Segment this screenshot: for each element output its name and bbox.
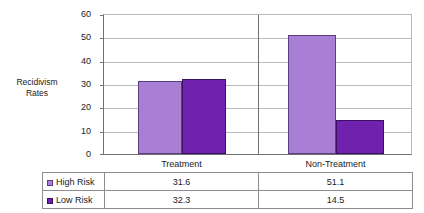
plot-area (103, 14, 412, 155)
bar-treatment-high-risk (138, 81, 182, 155)
y-tick-60: 60 (81, 10, 91, 19)
y-tick-30: 30 (81, 80, 91, 89)
tickmark-20 (100, 108, 104, 109)
legend-item-high-risk: High Risk (43, 173, 105, 191)
table-row: High Risk 31.6 51.1 (43, 173, 413, 191)
y-tick-40: 40 (81, 56, 91, 65)
high-risk-swatch-icon (47, 180, 53, 186)
y-tick-20: 20 (81, 103, 91, 112)
page-bleed-text (60, 0, 360, 4)
table-header-row: Treatment Non-Treatment (43, 155, 413, 173)
tickmark-10 (100, 132, 104, 133)
y-axis-title: Recidivism Rates (2, 77, 72, 99)
low-risk-swatch-icon (47, 198, 53, 204)
y-tick-10: 10 (81, 126, 91, 135)
y-tick-50: 50 (81, 33, 91, 42)
y-axis-title-line1: Recidivism (2, 77, 72, 88)
chart-figure: 60 50 40 30 20 10 0 Recidivism Rates (0, 0, 424, 213)
bar-nontreatment-high-risk (288, 35, 336, 154)
tickmark-30 (100, 85, 104, 86)
data-table: Treatment Non-Treatment High Risk 31.6 5… (42, 155, 413, 209)
category-divider (258, 15, 259, 154)
value-high-risk-treatment: 31.6 (105, 173, 259, 191)
legend-item-low-risk: Low Risk (43, 191, 105, 209)
tickmark-60 (100, 15, 104, 16)
bar-treatment-low-risk (182, 79, 226, 154)
category-header-nontreatment: Non-Treatment (259, 155, 413, 173)
legend-label-high-risk: High Risk (56, 177, 95, 187)
value-low-risk-nontreatment: 14.5 (259, 191, 413, 209)
value-high-risk-nontreatment: 51.1 (259, 173, 413, 191)
category-header-treatment: Treatment (105, 155, 259, 173)
bar-nontreatment-low-risk (336, 120, 384, 154)
table-row: Low Risk 32.3 14.5 (43, 191, 413, 209)
table-corner-cell (43, 155, 105, 173)
tickmark-50 (100, 38, 104, 39)
legend-label-low-risk: Low Risk (56, 195, 93, 205)
value-low-risk-treatment: 32.3 (105, 191, 259, 209)
tickmark-40 (100, 62, 104, 63)
y-axis-title-line2: Rates (2, 88, 72, 99)
